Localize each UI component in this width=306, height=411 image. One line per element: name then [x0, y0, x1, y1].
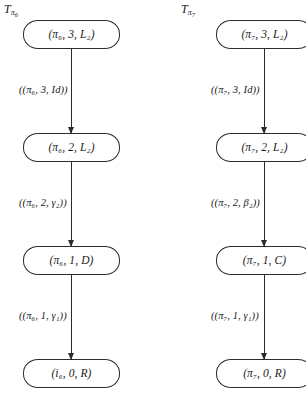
- flow-column-right: Tπ7 (π₇, 3, L₂) ((π₇, 3, Id)) (π₇, 2, L₂…: [153, 0, 306, 411]
- node-right-2: (π₇, 2, L₂): [216, 133, 306, 162]
- node-right-1: (π₇, 3, L₂): [216, 20, 306, 49]
- node-right-3-label: (π₇, 1, C): [243, 255, 286, 267]
- edge-right-2: [264, 162, 265, 246]
- node-left-1: (π₆, 3, L₂): [23, 20, 120, 49]
- node-left-4: (i₆, 0, R): [23, 359, 120, 388]
- edge-left-2-label: ((π₆, 2, γ₂)): [19, 198, 67, 209]
- edge-right-3: [264, 275, 265, 359]
- two-column-flow-diagram: Tπ6 (π₆, 3, L₂) ((π₆, 3, Id)) (π₆, 2, L₂…: [0, 0, 306, 411]
- node-right-2-label: (π₇, 2, L₂): [241, 142, 287, 154]
- node-right-4: (π₇, 0, R): [216, 359, 306, 388]
- column-title-left: Tπ6: [4, 3, 18, 18]
- node-left-2: (π₆, 2, L₂): [23, 133, 120, 162]
- node-right-3: (π₇, 1, C): [216, 246, 306, 275]
- column-title-right: Tπ7: [181, 3, 195, 18]
- node-left-4-label: (i₆, 0, R): [51, 368, 91, 380]
- edge-right-1-label: ((π₇, 3, Id)): [211, 85, 260, 96]
- column-title-left-base: T: [4, 2, 11, 16]
- edge-left-2: [71, 162, 72, 246]
- edge-left-3-label: ((π₆, 1, γ₁)): [19, 311, 67, 322]
- edge-left-1-label: ((π₆, 3, Id)): [19, 85, 68, 96]
- flow-column-left: Tπ6 (π₆, 3, L₂) ((π₆, 3, Id)) (π₆, 2, L₂…: [0, 0, 153, 411]
- column-title-right-subscript: π7: [188, 8, 195, 17]
- edge-left-1: [71, 49, 72, 133]
- edge-right-2-label: ((π₇, 2, β₂)): [211, 198, 260, 209]
- node-left-3: (π₆, 1, D): [23, 246, 120, 275]
- node-left-2-label: (π₆, 2, L₂): [48, 142, 94, 154]
- node-left-3-label: (π₆, 1, D): [50, 255, 94, 267]
- column-title-right-base: T: [181, 2, 188, 16]
- edge-left-3: [71, 275, 72, 359]
- node-right-4-label: (π₇, 0, R): [243, 368, 286, 380]
- node-left-1-label: (π₆, 3, L₂): [48, 29, 94, 41]
- node-right-1-label: (π₇, 3, L₂): [241, 29, 287, 41]
- edge-right-1: [264, 49, 265, 133]
- column-title-left-subscript: π6: [11, 8, 18, 17]
- edge-right-3-label: ((π₇, 1, γ₁)): [211, 311, 259, 322]
